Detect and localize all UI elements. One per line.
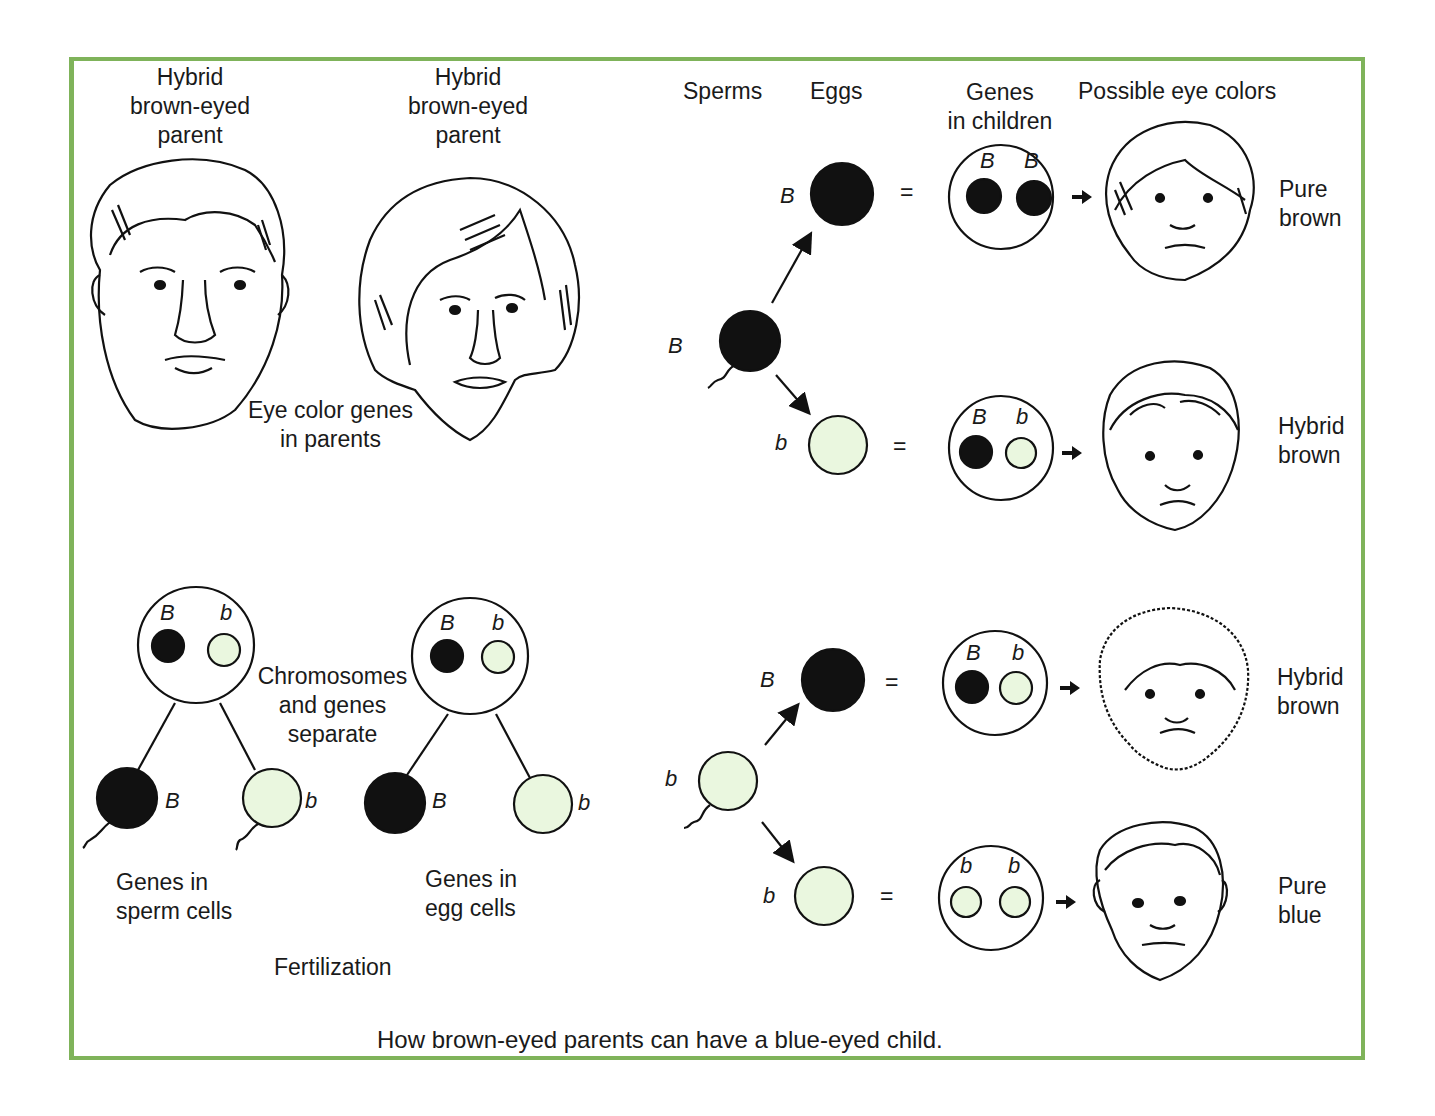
result-label: Pure blue xyxy=(1278,872,1327,930)
mother-label-line1: Hybrid xyxy=(393,63,543,92)
result-label: Hybrid brown xyxy=(1278,412,1344,470)
father-face-icon xyxy=(91,159,288,428)
child-face-icon-3 xyxy=(1100,608,1248,769)
sperm-caption-line1: Genes in xyxy=(116,868,232,897)
child-gene-label: b xyxy=(1016,404,1028,430)
egg-gene-label: B xyxy=(760,667,775,693)
result-label: Pure brown xyxy=(1279,175,1342,233)
header-eggs: Eggs xyxy=(810,77,862,106)
figure-caption: How brown-eyed parents can have a blue-e… xyxy=(377,1025,943,1054)
child-gene-label: B xyxy=(966,640,981,666)
gene-label: b xyxy=(492,610,504,636)
gene-label: B xyxy=(160,600,175,626)
separate-line1: Chromosomes xyxy=(250,662,415,691)
header-possible-eye-colors: Possible eye colors xyxy=(1078,77,1276,106)
egg-caption-line2: egg cells xyxy=(425,894,517,923)
parent-genes-line2: in parents xyxy=(233,425,428,454)
gene-label: b xyxy=(220,600,232,626)
parent-genes-line1: Eye color genes xyxy=(233,396,428,425)
egg-gene-label: B xyxy=(432,788,447,814)
egg-gene-label: b xyxy=(763,883,775,909)
equals-sign: = xyxy=(900,178,913,207)
egg-caption-line1: Genes in xyxy=(425,865,517,894)
equals-sign: = xyxy=(893,432,906,461)
separate-line2: and genes xyxy=(250,691,415,720)
child-gene-label: B xyxy=(972,404,987,430)
header-genes-line2: in children xyxy=(935,107,1065,136)
mother-label-line2: brown-eyed xyxy=(393,92,543,121)
parent-genes-label: Eye color genes in parents xyxy=(233,396,428,454)
equals-sign: = xyxy=(885,668,898,697)
result-line2: brown xyxy=(1277,692,1343,721)
sperm-gene-label: B xyxy=(165,788,180,814)
result-line1: Pure xyxy=(1278,872,1327,901)
header-genes-in-children: Genes in children xyxy=(935,78,1065,136)
sperm-caption: Genes in sperm cells xyxy=(116,868,232,926)
sperm-gene-label: b xyxy=(665,766,677,792)
result-line2: brown xyxy=(1279,204,1342,233)
sperm-gene-label: B xyxy=(668,333,683,359)
separate-line3: separate xyxy=(250,720,415,749)
result-line1: Hybrid xyxy=(1277,663,1343,692)
equals-sign: = xyxy=(880,882,893,911)
child-face-icon-4 xyxy=(1094,822,1227,980)
child-gene-label: B xyxy=(980,148,995,174)
child-gene-label: b xyxy=(1012,640,1024,666)
result-line1: Pure xyxy=(1279,175,1342,204)
egg-gene-label: B xyxy=(780,183,795,209)
result-label: Hybrid brown xyxy=(1277,663,1343,721)
diagram-artwork xyxy=(0,0,1435,1116)
egg-gene-label: b xyxy=(775,430,787,456)
egg-gene-label: b xyxy=(578,790,590,816)
header-genes-line1: Genes xyxy=(935,78,1065,107)
header-sperms: Sperms xyxy=(683,77,762,106)
result-line2: blue xyxy=(1278,901,1327,930)
separate-label: Chromosomes and genes separate xyxy=(250,662,415,749)
child-gene-label: b xyxy=(1008,853,1020,879)
child-face-icon-2 xyxy=(1103,361,1238,530)
egg-caption: Genes in egg cells xyxy=(425,865,517,923)
father-label-line2: brown-eyed xyxy=(115,92,265,121)
sperm-caption-line2: sperm cells xyxy=(116,897,232,926)
mother-label-line3: parent xyxy=(393,121,543,150)
result-line1: Hybrid xyxy=(1278,412,1344,441)
sperm-gene-label: b xyxy=(305,788,317,814)
child-gene-label: B xyxy=(1024,148,1039,174)
gene-label: B xyxy=(440,610,455,636)
child-face-icon-1 xyxy=(1106,122,1254,280)
father-label-line3: parent xyxy=(115,121,265,150)
child-gene-label: b xyxy=(960,853,972,879)
father-label-line1: Hybrid xyxy=(115,63,265,92)
father-label: Hybrid brown-eyed parent xyxy=(115,63,265,150)
result-line2: brown xyxy=(1278,441,1344,470)
mother-label: Hybrid brown-eyed parent xyxy=(393,63,543,150)
fertilization-label: Fertilization xyxy=(274,953,392,982)
